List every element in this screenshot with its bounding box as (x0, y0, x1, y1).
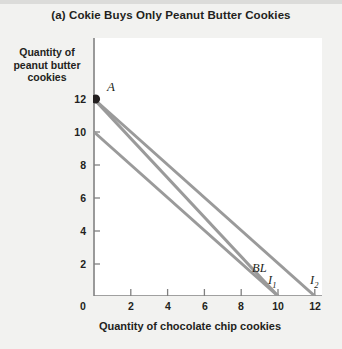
y-tick-marks (94, 99, 100, 264)
y-tick-label-2: 2 (64, 258, 86, 270)
y-tick-label-8: 8 (64, 159, 86, 171)
i1-label-sub: 1 (272, 280, 276, 290)
x-tick-marks (131, 289, 315, 296)
i2-label-sub: 2 (314, 280, 318, 290)
bl-label: BL (252, 261, 267, 276)
y-tick-label-12: 12 (64, 93, 86, 105)
y-tick-label-4: 4 (64, 225, 86, 237)
x-tick-label-10: 10 (267, 300, 289, 312)
x-tick-label-4: 4 (157, 300, 179, 312)
point-a-label: A (107, 79, 115, 95)
indifference-curve-i2 (94, 99, 315, 296)
chart-svg (93, 38, 322, 296)
indifference-curve-i1 (94, 132, 278, 296)
y-tick-label-6: 6 (64, 192, 86, 204)
origin-label: 0 (72, 300, 94, 312)
plot-area (93, 38, 322, 296)
i2-label: I2 (310, 273, 318, 290)
y-axis-title: Quantity of peanut butter cookies (4, 46, 90, 84)
i1-label: I1 (268, 273, 276, 290)
x-tick-label-12: 12 (304, 300, 326, 312)
x-tick-label-8: 8 (230, 300, 252, 312)
x-axis-title: Quantity of chocolate chip cookies (60, 320, 320, 333)
x-tick-label-2: 2 (120, 300, 142, 312)
x-tick-label-6: 6 (194, 300, 216, 312)
top-divider (0, 0, 342, 4)
budget-line-bl (94, 99, 278, 296)
y-tick-label-10: 10 (64, 126, 86, 138)
figure-panel: (a) Cokie Buys Only Peanut Butter Cookie… (0, 0, 342, 349)
page-title: (a) Cokie Buys Only Peanut Butter Cookie… (0, 9, 342, 21)
